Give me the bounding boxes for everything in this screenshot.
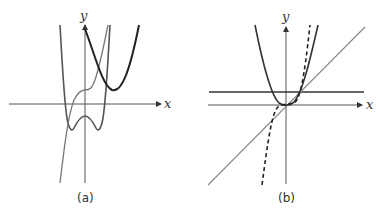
panel-caption-b: (b) xyxy=(278,191,295,205)
panel-caption-a: (a) xyxy=(77,191,94,205)
panel-b: x y (b) xyxy=(208,9,374,205)
y-axis-label-b: y xyxy=(281,9,290,24)
curve-parabola-a xyxy=(85,25,139,90)
x-axis-label-a: x xyxy=(164,96,172,111)
panel-a: x y (a) xyxy=(9,8,172,205)
figure-canvas: x y (a) x y (b) xyxy=(0,0,379,212)
x-axis-label-b: x xyxy=(366,97,374,112)
y-axis-label-a: y xyxy=(79,8,88,23)
